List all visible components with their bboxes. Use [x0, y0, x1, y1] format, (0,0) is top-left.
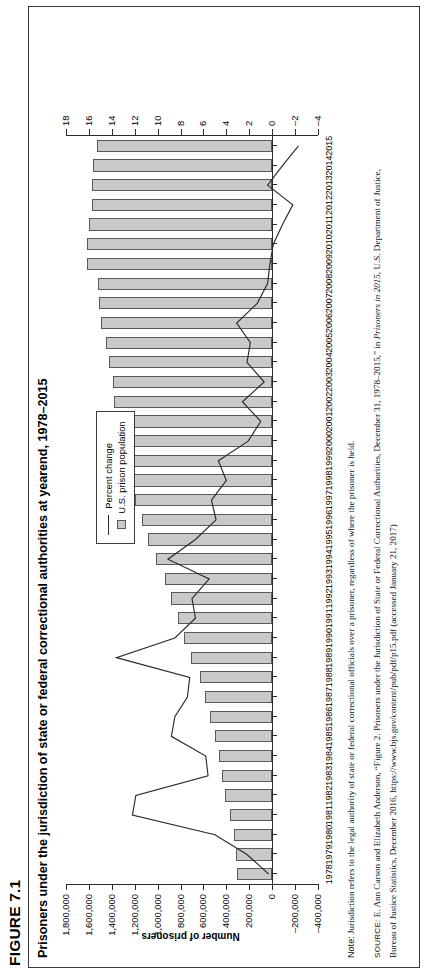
left-axis-tick-label: 200,000 — [243, 894, 254, 958]
year-tick — [272, 794, 277, 795]
left-axis-tick — [203, 884, 204, 890]
right-axis-tick — [249, 129, 250, 135]
left-axis-tick-label: 1,200,000 — [129, 894, 140, 958]
year-tick — [272, 302, 277, 303]
source-text-3: Bureau of Justice Statistics, December 2… — [388, 524, 398, 958]
right-axis-tick-label: 18 — [60, 92, 71, 126]
year-tick — [272, 755, 277, 756]
right-axis-tick — [158, 129, 159, 135]
year-tick — [272, 322, 277, 323]
year-tick — [272, 145, 277, 146]
left-axis-tick-label: 1,600,000 — [83, 894, 94, 958]
source-text-1: E. Ann Carson and Elizabeth Anderson, “F… — [372, 339, 382, 919]
left-axis-tick — [112, 884, 113, 890]
left-axis-title: Number of prisoners — [65, 931, 317, 942]
right-axis-tick-label: 6 — [197, 92, 208, 126]
year-tick — [272, 263, 277, 264]
year-tick — [272, 184, 277, 185]
figure-page: FIGURE 7.1 Prisoners under the jurisdict… — [0, 0, 426, 972]
year-tick — [272, 657, 277, 658]
year-tick — [272, 440, 277, 441]
right-axis-line — [66, 135, 318, 136]
year-tick — [272, 637, 277, 638]
year-tick — [272, 401, 277, 402]
year-tick — [272, 479, 277, 480]
right-axis-tick-label: –2 — [289, 92, 300, 126]
right-axis-tick-label: 2 — [243, 92, 254, 126]
left-axis-tick-label: –400,000 — [312, 894, 323, 958]
right-axis-tick — [66, 129, 67, 135]
left-axis-tick-label: 1,000,000 — [152, 894, 163, 958]
note-label: Note: — [346, 936, 356, 958]
year-tick — [272, 283, 277, 284]
left-axis-tick — [249, 884, 250, 890]
right-axis-tick-label: 12 — [129, 92, 140, 126]
year-tick — [272, 361, 277, 362]
year-tick — [272, 224, 277, 225]
year-tick — [272, 598, 277, 599]
right-axis-tick — [89, 129, 90, 135]
left-axis-tick-label: 600,000 — [197, 894, 208, 958]
source-label: SOURCE: — [373, 919, 382, 958]
right-axis-tick — [295, 129, 296, 135]
right-axis-tick-label: 8 — [175, 92, 186, 126]
year-tick — [272, 853, 277, 854]
left-axis-tick — [89, 884, 90, 890]
left-axis-tick — [318, 884, 319, 890]
year-tick — [272, 539, 277, 540]
year-tick — [272, 342, 277, 343]
year-tick — [272, 775, 277, 776]
left-axis-tick — [226, 884, 227, 890]
right-axis-tick — [112, 129, 113, 135]
year-tick — [272, 578, 277, 579]
year-tick — [272, 165, 277, 166]
right-axis-tick-label: 0 — [266, 92, 277, 126]
left-axis-tick-label: –200,000 — [289, 894, 300, 958]
right-axis-tick-label: –4 — [312, 92, 323, 126]
year-tick — [272, 420, 277, 421]
legend-label-prison-population: U.S. prison population — [116, 421, 127, 513]
line-marker-icon — [108, 515, 109, 535]
year-label: 2015 — [324, 134, 334, 158]
year-tick — [272, 460, 277, 461]
year-tick — [272, 696, 277, 697]
year-tick — [272, 814, 277, 815]
legend-item-percent-change: Percent change — [102, 421, 115, 534]
figure-source-line2: Bureau of Justice Statistics, December 2… — [388, 524, 398, 958]
left-axis-line — [66, 884, 318, 885]
right-axis-tick — [226, 129, 227, 135]
year-tick — [272, 676, 277, 677]
right-axis-tick-label: 10 — [152, 92, 163, 126]
bar-swatch-icon — [117, 520, 126, 529]
year-tick — [272, 499, 277, 500]
chart-legend: Percent change U.S. prison population — [96, 411, 135, 543]
left-axis-tick — [66, 884, 67, 890]
note-text: Jurisdiction refers to the legal authori… — [346, 441, 356, 936]
legend-label-percent-change: Percent change — [103, 443, 114, 509]
year-tick — [272, 558, 277, 559]
left-axis-tick-label: 800,000 — [175, 894, 186, 958]
year-tick — [272, 834, 277, 835]
right-axis-tick — [135, 129, 136, 135]
figure-title: Prisoners under the jurisdiction of stat… — [36, 378, 50, 958]
year-tick — [272, 735, 277, 736]
figure-source-line1: SOURCE: E. Ann Carson and Elizabeth Ande… — [372, 169, 382, 958]
left-axis-tick — [272, 884, 273, 890]
year-tick — [272, 381, 277, 382]
year-tick — [272, 617, 277, 618]
figure-number: FIGURE 7.1 — [6, 880, 24, 966]
right-axis-tick-label: 14 — [106, 92, 117, 126]
year-tick — [272, 519, 277, 520]
left-axis-tick-label: 1,400,000 — [106, 894, 117, 958]
left-axis-tick — [158, 884, 159, 890]
right-axis-tick-label: 4 — [220, 92, 231, 126]
year-tick — [272, 243, 277, 244]
left-axis-tick — [295, 884, 296, 890]
source-italic-title: Prisoners in 2015 — [372, 274, 382, 339]
right-axis-tick — [318, 129, 319, 135]
year-tick — [272, 204, 277, 205]
right-axis-tick — [272, 129, 273, 135]
left-axis-tick-label: 1,800,000 — [60, 894, 71, 958]
left-axis-tick-label: 0 — [266, 894, 277, 958]
left-axis-tick-label: 400,000 — [220, 894, 231, 958]
